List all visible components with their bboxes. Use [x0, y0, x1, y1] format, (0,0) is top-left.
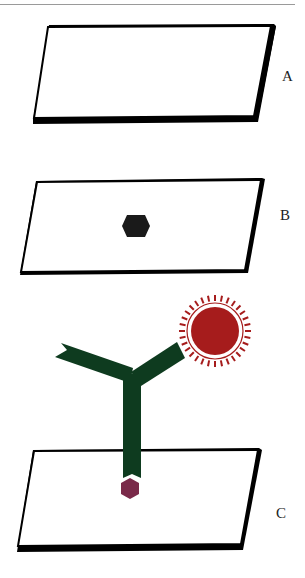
diagram-canvas [0, 0, 305, 578]
panel-label-c: C [276, 505, 286, 522]
panel-label-a: A [282, 68, 293, 85]
panel-label-b: B [280, 207, 290, 224]
plate-b [20, 178, 265, 275]
plate-a [33, 24, 276, 124]
label-sun-marker [179, 295, 251, 367]
antigen-hexagon-b [122, 215, 150, 237]
